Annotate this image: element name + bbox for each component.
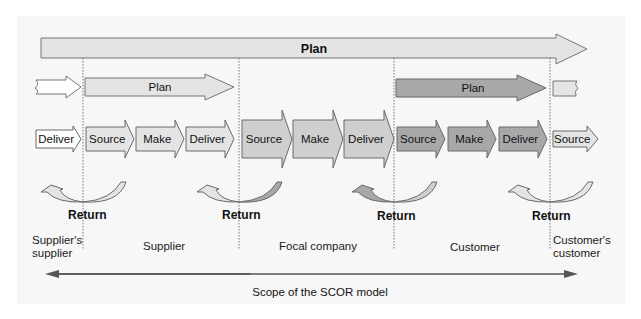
return-label: Return — [532, 209, 571, 223]
partial-plan-arrow-right — [553, 81, 578, 96]
process-label: Source — [246, 133, 282, 145]
supplier-plan-label: Plan — [148, 81, 171, 93]
entity-label-customers-customer: Customer's customer — [553, 234, 611, 260]
process-label: Make — [455, 133, 483, 145]
process-label: Deliver — [189, 133, 225, 145]
process-label: Source — [400, 133, 436, 145]
diagram-canvas: Plan Plan Plan DeliverSourceMakeDeliverS… — [0, 0, 641, 319]
entity-label-focal-company: Focal company — [279, 240, 357, 253]
process-label: Deliver — [348, 133, 384, 145]
return-label: Return — [377, 209, 416, 223]
process-label: Source — [554, 133, 590, 145]
scor-diagram: Plan Plan Plan DeliverSourceMakeDeliverS… — [0, 0, 641, 319]
entity-label-customer: Customer — [450, 241, 500, 254]
process-label: Source — [89, 133, 125, 145]
entity-label-suppliers-supplier: Supplier's supplier — [32, 234, 82, 260]
entity-label-supplier: Supplier — [143, 240, 185, 253]
top-plan-label: Plan — [301, 42, 327, 56]
background-panel-full — [17, 16, 625, 304]
process-label: Deliver — [38, 133, 74, 145]
process-label: Deliver — [502, 133, 538, 145]
process-label: Make — [301, 133, 329, 145]
customer-plan-label: Plan — [461, 82, 484, 94]
process-label: Make — [143, 133, 171, 145]
scope-label: Scope of the SCOR model — [252, 286, 388, 298]
return-label: Return — [68, 208, 107, 222]
process-arrow-deliver: Deliver — [36, 126, 81, 152]
return-label: Return — [222, 208, 261, 222]
